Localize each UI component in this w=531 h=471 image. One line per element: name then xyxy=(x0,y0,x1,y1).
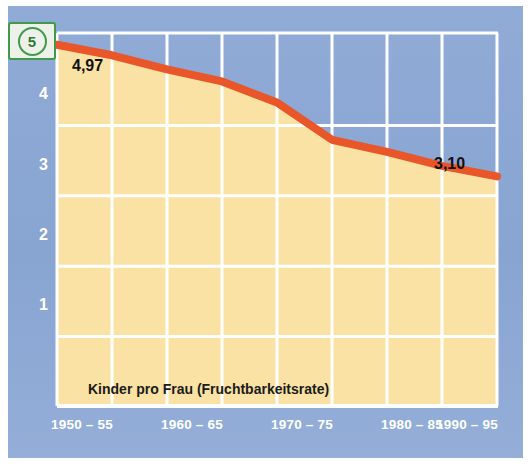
y-tick-2: 2 xyxy=(22,226,48,244)
data-label-end: 3,10 xyxy=(434,155,465,173)
chart-caption: Kinder pro Frau (Fruchtbarkeitsrate) xyxy=(88,381,329,397)
y-tick-1: 1 xyxy=(22,296,48,314)
x-tick-1970-75: 1970 – 75 xyxy=(247,417,357,432)
chart-figure: 4 3 2 1 1950 – 55 1960 – 65 1970 – 75 19… xyxy=(0,0,531,471)
x-tick-1960-65: 1960 – 65 xyxy=(137,417,247,432)
x-tick-1950-55: 1950 – 55 xyxy=(27,417,137,432)
x-tick-1990-95: 1990 – 95 xyxy=(412,417,522,432)
figure-number-badge: 5 xyxy=(8,22,56,60)
y-tick-4: 4 xyxy=(22,85,48,103)
data-label-start: 4,97 xyxy=(72,57,103,75)
y-tick-3: 3 xyxy=(22,156,48,174)
figure-number: 5 xyxy=(18,27,47,56)
